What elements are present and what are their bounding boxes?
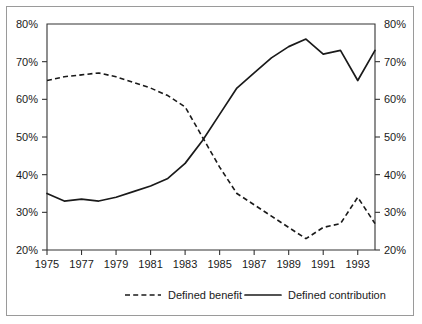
x-tick-label: 1985 <box>207 258 231 270</box>
chart-frame: 80%70%60%50%40%30%20% 80%70%60%50%40%30%… <box>6 6 414 316</box>
series-line-solid <box>47 39 375 201</box>
legend-label: Defined contribution <box>288 289 386 301</box>
line-chart: 80%70%60%50%40%30%20% 80%70%60%50%40%30%… <box>7 7 413 315</box>
x-tick-label: 1991 <box>311 258 335 270</box>
x-tick-label: 1989 <box>276 258 300 270</box>
y-tick-label-right: 40% <box>384 169 406 181</box>
x-tick-label: 1981 <box>138 258 162 270</box>
y-tick-label-right: 70% <box>384 56 406 68</box>
series-lines <box>47 39 375 239</box>
y-axis-right: 80%70%60%50%40%30%20% <box>375 18 406 256</box>
x-tick-label: 1983 <box>173 258 197 270</box>
y-tick-label-right: 50% <box>384 131 406 143</box>
y-tick-label-left: 30% <box>16 206 38 218</box>
x-axis: 1975197719791981198319851987198919911993 <box>35 250 370 270</box>
x-tick-label: 1993 <box>345 258 369 270</box>
y-tick-label-right: 30% <box>384 206 406 218</box>
chart-legend: Defined benefitDefined contribution <box>125 289 386 301</box>
x-tick-label: 1979 <box>104 258 128 270</box>
y-tick-label-left: 80% <box>16 18 38 30</box>
plot-border <box>47 24 375 250</box>
x-tick-label: 1987 <box>242 258 266 270</box>
y-tick-label-right: 80% <box>384 18 406 30</box>
y-tick-label-right: 20% <box>384 244 406 256</box>
y-axis-left: 80%70%60%50%40%30%20% <box>16 18 47 256</box>
y-tick-label-right: 60% <box>384 93 406 105</box>
series-line-dashed <box>47 73 375 239</box>
x-tick-label: 1977 <box>69 258 93 270</box>
legend-label: Defined benefit <box>168 289 242 301</box>
y-tick-label-left: 40% <box>16 169 38 181</box>
y-tick-label-left: 50% <box>16 131 38 143</box>
y-tick-label-left: 20% <box>16 244 38 256</box>
y-tick-label-left: 60% <box>16 93 38 105</box>
y-tick-label-left: 70% <box>16 56 38 68</box>
x-tick-label: 1975 <box>35 258 59 270</box>
